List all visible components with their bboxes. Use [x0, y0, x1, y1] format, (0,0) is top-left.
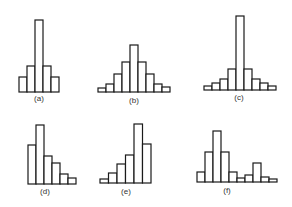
histogram-figure: (a) (b) (c) (d) (e) (f)	[0, 0, 292, 207]
histogram-bar	[245, 175, 253, 182]
histogram-bar	[260, 83, 268, 90]
histogram-bar	[221, 152, 229, 182]
panel-label-f: (f)	[223, 186, 231, 195]
histogram-bar	[154, 84, 162, 92]
histogram-bar	[197, 172, 205, 182]
histogram-bar	[114, 74, 122, 92]
panel-label-e: (e)	[121, 187, 131, 196]
histogram-bar	[253, 163, 261, 182]
histogram-bar	[204, 86, 212, 90]
histogram-bar	[28, 145, 36, 184]
histogram-bar	[109, 173, 118, 183]
histogram-bar	[212, 83, 220, 90]
panel-label-a: (a)	[34, 94, 44, 103]
histogram-bar	[36, 125, 44, 184]
histogram-bar	[261, 177, 269, 182]
histogram-bar	[98, 88, 106, 92]
histogram-bar	[44, 156, 52, 184]
histogram-bar	[229, 172, 237, 182]
histogram-bar	[244, 69, 252, 90]
histogram-bar	[117, 164, 126, 183]
histogram-bar	[35, 20, 43, 92]
histogram-bar	[268, 86, 276, 90]
histogram-bar	[237, 178, 245, 182]
histogram-bar	[146, 74, 154, 92]
histogram-bar	[122, 62, 130, 92]
histogram-c	[204, 16, 276, 90]
histogram-bar	[269, 179, 277, 182]
histogram-bar	[213, 131, 221, 182]
histogram-d	[28, 125, 76, 184]
histogram-bar	[106, 84, 114, 92]
histogram-bar	[126, 155, 135, 183]
histogram-bar	[100, 179, 109, 183]
histogram-bar	[143, 144, 152, 183]
histogram-bar	[134, 124, 143, 183]
histogram-bar	[52, 163, 60, 184]
histogram-e	[100, 124, 151, 183]
histograms-canvas	[0, 0, 292, 207]
histogram-bar	[138, 62, 146, 92]
histogram-bar	[130, 45, 138, 92]
histogram-bar	[68, 178, 76, 184]
histogram-bar	[252, 79, 260, 90]
panel-label-d: (d)	[40, 187, 50, 196]
histogram-bar	[19, 77, 27, 92]
histogram-bar	[51, 77, 59, 92]
histogram-bar	[60, 174, 68, 184]
histogram-bar	[162, 87, 170, 92]
histogram-f	[197, 131, 277, 182]
histogram-bar	[228, 69, 236, 90]
histogram-bar	[236, 16, 244, 90]
panel-label-c: (c)	[234, 93, 243, 102]
histogram-bar	[220, 79, 228, 90]
histogram-a	[19, 20, 59, 92]
histogram-b	[98, 45, 170, 92]
histogram-bar	[43, 66, 51, 92]
histogram-bar	[27, 66, 35, 92]
panel-label-b: (b)	[129, 96, 139, 105]
histogram-bar	[205, 152, 213, 182]
